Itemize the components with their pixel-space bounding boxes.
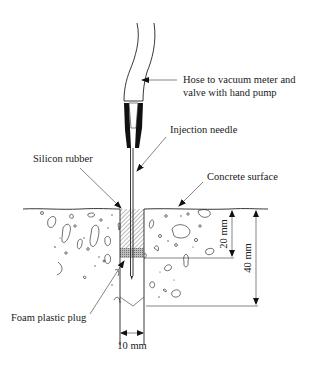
dimension-label-10mm: 10 mm <box>117 340 146 351</box>
leader-plug <box>90 261 124 314</box>
dimension-20mm: 20 mm <box>218 211 232 256</box>
label-hose: Hose to vacuum meter and valve with hand… <box>183 74 298 98</box>
vacuum-test-diagram: 20 mm 40 mm 10 mm Hose to vacuum meter a… <box>0 0 310 367</box>
dimension-40mm: 40 mm <box>242 211 256 304</box>
leader-surface <box>179 182 203 206</box>
dimension-label-40mm: 40 mm <box>242 243 253 272</box>
leader-silicon <box>80 168 121 208</box>
label-concrete-surface: Concrete surface <box>207 171 278 182</box>
needle-connector <box>124 103 143 148</box>
label-injection-needle: Injection needle <box>170 124 238 135</box>
label-foam-plastic-plug: Foam plastic plug <box>11 312 87 323</box>
leader-needle <box>137 137 166 171</box>
dimension-10mm: 10 mm <box>117 333 146 351</box>
hose <box>124 23 155 101</box>
label-silicon-rubber: Silicon rubber <box>33 153 93 164</box>
dimension-label-20mm: 20 mm <box>218 219 229 248</box>
foam-plastic-plug <box>120 248 144 258</box>
silicon-rubber-seal <box>120 209 144 248</box>
concrete-surface-line <box>23 209 268 210</box>
